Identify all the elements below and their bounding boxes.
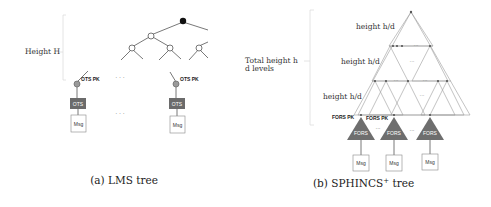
- node: [446, 80, 448, 82]
- node: [429, 45, 431, 47]
- sphincs-caption-tail: tree: [389, 177, 414, 189]
- ots-pk-node: [74, 81, 80, 87]
- node: [396, 45, 398, 47]
- fors-tree: FORS Msg: [416, 117, 444, 170]
- sphincs-caption-main: (b) SPHINCS: [313, 177, 383, 189]
- fors-tree: FORS Msg: [380, 117, 408, 171]
- ellipsis: ···: [420, 92, 425, 98]
- msg-label: Msg: [425, 159, 435, 165]
- root-node: [410, 11, 412, 13]
- ellipsis: ···: [376, 125, 381, 131]
- msg-label: Msg: [173, 122, 183, 128]
- ellipsis: ···: [414, 42, 419, 48]
- node: [385, 80, 387, 82]
- ellipsis: ···: [423, 77, 428, 83]
- fors-label: FORS: [387, 130, 402, 136]
- node: [393, 114, 395, 116]
- msg-label: Msg: [389, 160, 399, 166]
- edge: [170, 72, 176, 82]
- ots-label: OTS: [172, 101, 183, 107]
- bottom-subtree: [369, 81, 403, 115]
- layer-height-label: height h/d: [323, 92, 362, 101]
- edge: [183, 22, 208, 30]
- node: [407, 80, 409, 82]
- total-height-bracket: [310, 10, 314, 125]
- bottom-subtree: [391, 81, 425, 115]
- tree-node: [129, 45, 135, 51]
- node: [437, 80, 439, 82]
- ellipsis: · · ·: [115, 110, 124, 116]
- ots-pk-label: OTS PK: [180, 76, 199, 82]
- sphincs-caption: (b) SPHINCS+ tree: [313, 177, 414, 189]
- ots-label: OTS: [73, 101, 84, 107]
- ellipsis: · · ·: [115, 74, 124, 80]
- node: [429, 114, 431, 116]
- ots-pk-label: OTS PK: [81, 76, 100, 82]
- height-bracket: [63, 15, 66, 80]
- top-subtree: [389, 12, 433, 46]
- layer-height-label: height h/d: [341, 57, 380, 66]
- node: [392, 45, 394, 47]
- d-levels-label: d levels: [245, 64, 274, 73]
- ellipsis: ···: [394, 77, 399, 83]
- height-label: Height H: [25, 47, 60, 56]
- tree-node: [167, 45, 173, 51]
- edge: [151, 22, 183, 35]
- lms-caption: (a) LMS tree: [90, 174, 158, 186]
- msg-label: Msg: [356, 160, 366, 166]
- fors-label: FORS: [354, 130, 369, 136]
- msg-label: Msg: [74, 121, 84, 127]
- sphincs-tree: Total height h d levels height h/d heigh…: [245, 10, 470, 189]
- fors-pk-label: FORS PK: [366, 115, 389, 121]
- diagram-canvas: Height H OTS PK OTS Msg OTS PK: [0, 0, 491, 207]
- bottom-subtree: [430, 81, 464, 115]
- bottom-subtree: [421, 81, 455, 115]
- tree-node: [196, 45, 202, 51]
- ots-pk-node: [173, 81, 179, 87]
- ellipsis: ···: [410, 127, 415, 133]
- ellipsis: ···: [410, 58, 415, 64]
- root-node: [180, 18, 186, 24]
- mid-subtree: [412, 46, 448, 81]
- fors-triangle: [416, 117, 444, 140]
- node: [401, 45, 403, 47]
- fors-tree: FORS Msg: [347, 117, 375, 171]
- outer-edge: [411, 12, 470, 115]
- node: [374, 80, 376, 82]
- lms-tree: Height H OTS PK OTS Msg OTS PK: [25, 15, 208, 186]
- layer-height-label: height h/d: [356, 22, 395, 31]
- tree-node: [148, 33, 154, 39]
- fors-label: FORS: [423, 130, 438, 136]
- node: [360, 114, 362, 116]
- fors-pk-label: FORS PK: [332, 114, 355, 120]
